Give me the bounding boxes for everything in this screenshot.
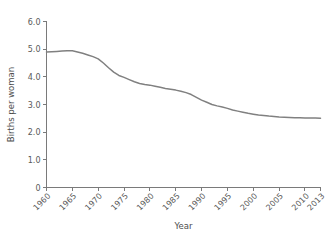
x-tick-label: 1975 [109, 192, 130, 213]
x-tick-label: 1985 [161, 192, 182, 213]
x-tick-label: 1970 [83, 192, 104, 213]
y-tick-label: 2.0 [28, 128, 41, 137]
x-axis-title: Year [174, 221, 194, 231]
y-tick-label: 6.0 [28, 18, 41, 27]
y-tick-label: 5.0 [28, 45, 41, 54]
x-tick-label: 2000 [238, 192, 259, 213]
plot-series-group [47, 51, 321, 119]
x-axis-tick-labels: 1960196519701975198019851990199520002005… [32, 192, 327, 213]
y-tick-label: 1.0 [28, 156, 41, 165]
y-tick-label: 0 [35, 184, 40, 193]
x-tick-label: 1965 [58, 192, 79, 213]
y-axis: 01.02.03.04.05.06.0 [28, 18, 47, 193]
x-tick-label: 1995 [213, 192, 234, 213]
y-tick-label: 4.0 [28, 73, 41, 82]
chart-canvas: 01.02.03.04.05.06.0 19601965197019751980… [0, 0, 335, 235]
x-tick-label: 2005 [264, 192, 285, 213]
x-axis: 1960196519701975198019851990199520002005… [32, 188, 327, 213]
births-per-woman-line [47, 51, 321, 119]
y-axis-title: Births per woman [6, 67, 16, 142]
x-tick-label: 1960 [32, 192, 53, 213]
x-tick-label: 2013 [306, 192, 327, 213]
x-tick-label: 1980 [135, 192, 156, 213]
line-chart: 01.02.03.04.05.06.0 19601965197019751980… [0, 0, 335, 235]
y-axis-tick-labels: 01.02.03.04.05.06.0 [28, 18, 41, 193]
y-tick-label: 3.0 [28, 101, 41, 110]
x-tick-label: 1990 [187, 192, 208, 213]
